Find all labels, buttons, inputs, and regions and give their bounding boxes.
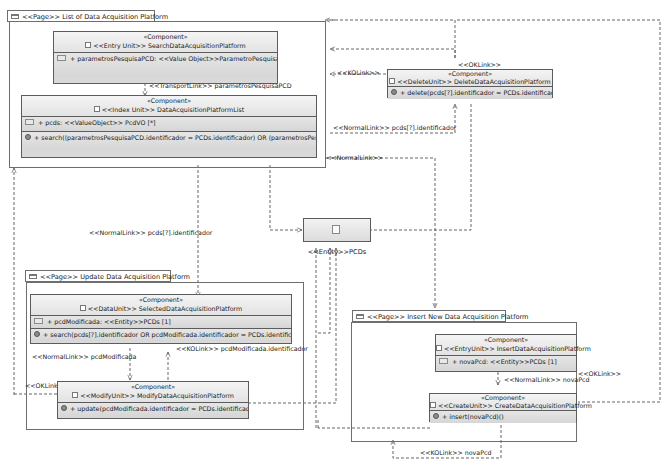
folder-icon [29,274,37,279]
component-header: «Component» <<EntryUnit>> InsertDataAcqu… [436,335,576,356]
folder-icon [11,14,19,19]
entity-label: <<Entity>>PCDs [308,248,366,256]
modify-unit-icon [72,392,78,398]
component-insert-entry-unit[interactable]: «Component» <<EntryUnit>> InsertDataAcqu… [435,334,577,372]
entity-pcds[interactable]: <<Entity>>PCDs [303,218,371,242]
page-title-list: <<Page>> List of Data Acquisition Platfo… [22,13,168,21]
ok-link-label-delete[interactable]: <<OKLink>> [458,61,501,69]
transport-link-label[interactable]: <<TransportLink>> parametrosPesquisaPCD [149,82,292,90]
component-header: «Component» <<DataUnit>> SelectedDataAcq… [31,295,291,316]
component-search-entry-unit[interactable]: «Component» <<Entry Unit>> SearchDataAcq… [53,31,278,84]
entity-icon [332,225,340,234]
page-tab-update[interactable]: <<Page>> Update Data Acquisition Platfor… [25,270,171,282]
attribute-icon [57,55,66,61]
entry-unit-icon [436,345,442,351]
index-unit-icon [94,106,100,112]
attribute-icon [25,119,34,125]
unit-name: <<Index Unit>> DataAcquisitionPlatformLi… [102,106,244,113]
attribute-icon [439,358,448,364]
component-header: «Component» <<CreateUnit>> CreateDataAcq… [430,394,576,411]
data-unit-icon [80,305,86,311]
ko-link-label-modify[interactable]: <<KOLink>> pcdModificada.identificador [176,345,308,353]
component-index-unit[interactable]: «Component» <<Index Unit>> DataAcquisiti… [21,95,317,158]
ko-link-label-create[interactable]: <<KOLink>> novaPcd [420,449,491,457]
normal-link-label-delete[interactable]: <<NormalLink>> pcds[?].identificador [333,124,456,132]
create-unit-icon [430,402,436,408]
stereotype-label: «Component» [58,383,248,392]
component-modify-unit[interactable]: «Component» <<ModifyUnit>> ModifyDataAcq… [57,381,249,419]
component-header: «Component» <<Index Unit>> DataAcquisiti… [22,96,316,117]
operation-row[interactable]: + search((parametrosPesquisaPCD.identifi… [22,132,316,150]
normal-link-label-insert[interactable]: <<NormalLink>> [326,154,383,162]
stereotype-label: «Component» [22,97,316,106]
operation-row[interactable]: + search(pcds[?].identificador OR pcdMod… [31,329,291,341]
operation-row[interactable]: + insert(novaPcd)() [430,411,576,423]
stereotype-label: «Component» [388,70,552,78]
component-delete-unit[interactable]: «Component» <<DeleteUnit>> DeleteDataAcq… [387,69,553,98]
operation-icon [25,134,31,140]
operation-icon [61,405,67,411]
unit-name: <<DataUnit>> SelectedDataAcquisitionPlat… [88,305,242,312]
operation-row[interactable]: + update(pcdModificada.identificador = P… [58,403,248,417]
attribute-row[interactable]: + novaPcd: <<Entity>>PCDs [1] [436,356,576,370]
normal-link-label-update[interactable]: <<NormalLink>> pcds[?].identificador [89,229,212,237]
operation-icon [433,413,439,419]
unit-name: <<ModifyUnit>> ModifyDataAcquisitionPlat… [80,392,234,399]
stereotype-label: «Component» [31,296,291,305]
unit-name: <<EntryUnit>> InsertDataAcquisitionPlatf… [444,345,591,352]
attribute-row[interactable]: + pcdModificada: <<Entity>>PCDs [1] [31,316,291,329]
component-create-unit[interactable]: «Component» <<CreateUnit>> CreateDataAcq… [429,393,577,422]
unit-name: <<DeleteUnit>> DeleteDataAcquisitionPlat… [397,78,550,85]
operation-icon [34,331,40,337]
operation-icon [391,89,397,95]
stereotype-label: «Component» [54,33,277,42]
attribute-row[interactable]: + parametrosPesquisaPCD: <<Value Object>… [54,53,277,77]
entry-unit-icon [85,42,91,48]
normal-link-label-modify[interactable]: <<NormalLink>> pcdModificada [32,353,136,361]
attribute-icon [34,318,43,324]
normal-link-label-create[interactable]: <<NormalLink>> novaPcd [504,376,589,384]
component-header: «Component» <<ModifyUnit>> ModifyDataAcq… [58,382,248,403]
ko-link-label-delete[interactable]: <<KOLink>> [337,69,380,77]
component-data-unit[interactable]: «Component» <<DataUnit>> SelectedDataAcq… [30,294,292,344]
stereotype-label: «Component» [430,394,576,402]
ok-link-label-create[interactable]: <<OKLink>> [578,370,621,378]
folder-icon [356,314,364,319]
component-header: «Component» <<Entry Unit>> SearchDataAcq… [54,32,277,53]
stereotype-label: «Component» [436,336,576,345]
page-title-update: <<Page>> Update Data Acquisition Platfor… [40,273,190,281]
attribute-row[interactable]: + pcds: <<ValueObject>> PcdVO [*] [22,117,316,132]
operation-row[interactable]: + delete(pcds[?].identificador = PCDs.id… [388,87,552,99]
delete-unit-icon [389,78,395,84]
page-title-insert: <<Page>> Insert New Data Acquisition Pla… [367,313,529,321]
unit-name: <<CreateUnit>> CreateDataAcquisitionPlat… [438,402,592,409]
page-tab-insert[interactable]: <<Page>> Insert New Data Acquisition Pla… [352,310,506,322]
component-header: «Component» <<DeleteUnit>> DeleteDataAcq… [388,70,552,87]
unit-name: <<Entry Unit>> SearchDataAcquisitionPlat… [93,42,245,49]
